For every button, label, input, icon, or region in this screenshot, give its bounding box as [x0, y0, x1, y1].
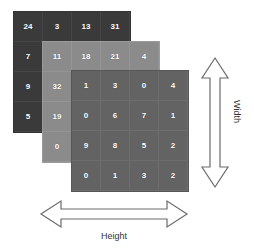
diagram-canvas: 24 3 13 31 7 11 18 21 9 32 1 3 5 19 0 6 …: [0, 0, 254, 250]
width-label: Width: [202, 100, 242, 140]
matrix-cell: 0: [130, 71, 159, 101]
matrix-cell: 5: [130, 131, 159, 161]
matrix-cell: 19: [43, 102, 72, 132]
matrix-cell: 9: [14, 72, 43, 102]
matrix-cell: 1: [72, 71, 101, 101]
matrix-cell: 32: [43, 72, 72, 102]
matrix-cell: 4: [159, 71, 188, 101]
matrix-cell: 0: [72, 101, 101, 131]
matrix-cell: 6: [101, 101, 130, 131]
matrix-cell: 21: [101, 42, 130, 72]
matrix-cell: 1: [101, 161, 130, 191]
matrix-cell: 7: [14, 42, 43, 72]
matrix-cell: 31: [101, 12, 130, 42]
matrix-cell: 3: [130, 161, 159, 191]
matrix-cell: 3: [101, 71, 130, 101]
matrix-cell: 11: [43, 42, 72, 72]
matrix-cell: 13: [72, 12, 101, 42]
matrix-cell: 5: [14, 102, 43, 132]
double-headed-horizontal-arrow-icon: [39, 198, 189, 230]
matrix-cell: 2: [159, 131, 188, 161]
matrix-cell: 0: [43, 132, 72, 162]
front-matrix: 1 3 0 4 0 6 7 1 9 8 5 2 0 1 3 2: [71, 70, 189, 192]
matrix-cell: 8: [101, 131, 130, 161]
matrix-cell: 7: [130, 101, 159, 131]
matrix-cell: 18: [72, 42, 101, 72]
matrix-cell: 4: [130, 42, 159, 72]
matrix-cell: 9: [72, 131, 101, 161]
matrix-cell: 2: [159, 161, 188, 191]
height-dimension-arrow: [39, 198, 189, 230]
matrix-cell: 24: [14, 12, 43, 42]
matrix-cell: 0: [72, 161, 101, 191]
matrix-cell: 3: [43, 12, 72, 42]
matrix-cell: 1: [159, 101, 188, 131]
height-label: Height: [0, 231, 228, 241]
